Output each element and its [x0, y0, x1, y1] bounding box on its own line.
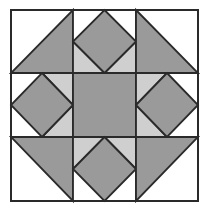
quilt-block-diagram — [0, 0, 213, 219]
cell-r1c1-center-square — [73, 73, 136, 137]
